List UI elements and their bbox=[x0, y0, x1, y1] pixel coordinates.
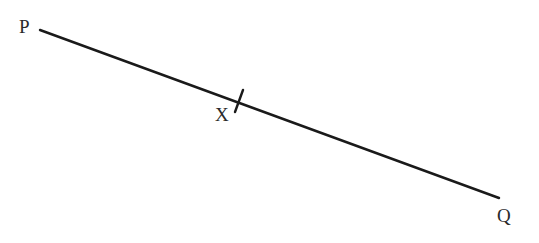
diagram-canvas: P X Q bbox=[0, 0, 539, 243]
label-q: Q bbox=[497, 205, 511, 226]
label-x: X bbox=[215, 104, 229, 125]
segment-pq bbox=[40, 30, 499, 198]
label-p: P bbox=[19, 16, 30, 37]
